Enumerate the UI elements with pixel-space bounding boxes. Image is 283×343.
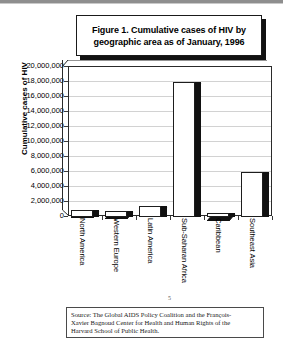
- source-line-1: Source: The Global AIDS Policy Coalition…: [71, 311, 259, 319]
- y-tick-mark: [64, 186, 68, 187]
- y-tick-mark: [64, 141, 68, 142]
- y-tick-mark: [64, 66, 68, 67]
- y-tick-mark: [64, 81, 68, 82]
- source-line-2: Xavier Bagnoud Center for Health and Hum…: [71, 319, 259, 327]
- bar-column: [173, 76, 195, 217]
- bar-column: [207, 207, 229, 217]
- bar-side-face: [127, 211, 133, 217]
- bar-column: [105, 205, 127, 217]
- x-axis-label: Latin America: [146, 218, 155, 288]
- bar-front-face: [207, 213, 229, 217]
- chart-title-line-1: Figure 1. Cumulative cases of HIV by: [92, 24, 246, 36]
- y-tick-label: 14,000,000: [10, 107, 64, 115]
- bar-front-face: [241, 172, 263, 217]
- bar-side-face: [229, 213, 235, 217]
- y-tick-mark: [64, 96, 68, 97]
- y-tick-label: 20,000,000: [10, 62, 64, 70]
- y-tick-mark: [64, 171, 68, 172]
- source-line-3: Harvard School of Public Health.: [71, 327, 259, 335]
- bar-side-face: [161, 206, 167, 217]
- y-tick-mark: [64, 201, 68, 202]
- page-number: 5: [168, 295, 171, 301]
- bar-front-face: [71, 210, 93, 218]
- bars-group: [68, 66, 272, 217]
- bar-front-face: [139, 206, 161, 217]
- y-tick-mark: [64, 111, 68, 112]
- x-tick-mark: [272, 216, 273, 220]
- x-axis-label: Western Europe: [112, 218, 121, 288]
- bar-side-face: [93, 210, 99, 218]
- bar-column: [71, 204, 93, 218]
- y-tick-label: 6,000,000: [10, 167, 64, 175]
- y-tick-label: 4,000,000: [10, 182, 64, 190]
- y-tick-label: 2,000,000: [10, 197, 64, 205]
- y-tick-label: 8,000,000: [10, 152, 64, 160]
- y-tick-mark: [64, 126, 68, 127]
- y-tick-label: 10,000,000: [10, 137, 64, 145]
- y-tick-mark: [64, 216, 68, 217]
- bar-front-face: [173, 82, 195, 217]
- y-axis-tick-labels: 20,000,00018,000,00016,000,00014,000,000…: [6, 4, 64, 343]
- y-tick-mark: [64, 156, 68, 157]
- x-axis-label: North America: [78, 218, 87, 288]
- x-axis-label: Caribbean: [214, 218, 223, 288]
- bar-side-face: [263, 172, 269, 217]
- y-tick-label: 0: [10, 212, 64, 220]
- y-tick-label: 12,000,000: [10, 122, 64, 130]
- y-tick-label: 18,000,000: [10, 77, 64, 85]
- bar-front-face: [105, 211, 127, 217]
- figure-container: Figure 1. Cumulative cases of HIV by geo…: [0, 4, 283, 343]
- x-axis-label: Sub-Saharan Africa: [180, 218, 189, 288]
- source-note-box: Source: The Global AIDS Policy Coalition…: [66, 307, 264, 338]
- x-axis-category-labels: North AmericaWestern EuropeLatin America…: [68, 218, 272, 290]
- chart-title-line-2: geographic area as of January, 1996: [94, 36, 245, 48]
- bar-side-face: [195, 82, 201, 217]
- chart-title-box: Figure 1. Cumulative cases of HIV by geo…: [76, 15, 262, 56]
- y-tick-label: 16,000,000: [10, 92, 64, 100]
- bar-column: [139, 200, 161, 217]
- bar-column: [241, 166, 263, 217]
- x-axis-label: Southeast Asia: [248, 218, 257, 288]
